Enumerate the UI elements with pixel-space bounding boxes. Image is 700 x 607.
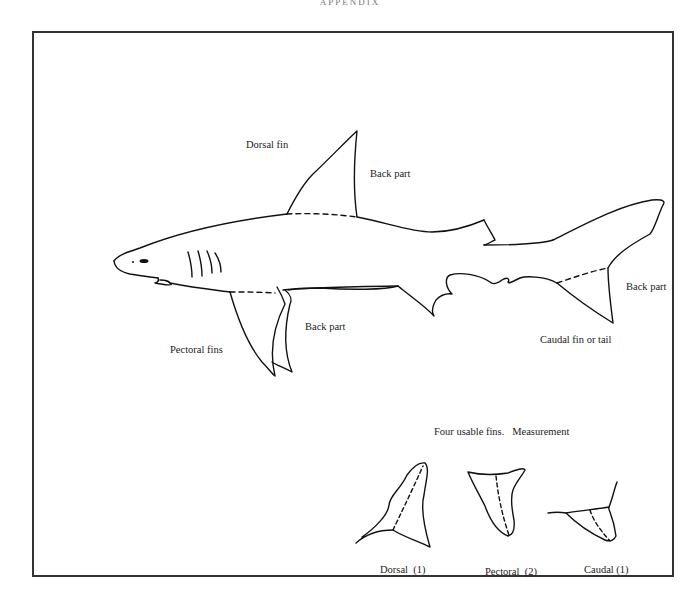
dorsal-fin — [287, 131, 357, 217]
label-dorsal-fin: Dorsal fin — [246, 139, 288, 150]
measure-pectoral — [468, 469, 525, 536]
measure-dorsal — [356, 463, 430, 547]
label-pectoral-back-part: Back part — [305, 321, 346, 332]
measure-caudal — [548, 482, 617, 541]
shark-diagram — [0, 0, 700, 607]
pectoral-fin — [230, 287, 285, 376]
label-pectoral-fins: Pectoral fins — [170, 344, 223, 355]
caption-dorsal: Dorsal (1) — [380, 564, 426, 575]
caption-caudal: Caudal (1) — [584, 564, 629, 575]
eye-icon — [140, 259, 149, 263]
label-dorsal-back-part: Back part — [370, 168, 411, 179]
label-caudal-back-part: Back part — [626, 281, 667, 292]
caption-pectoral: Pectoral (2) — [485, 566, 537, 577]
measurement-heading: Four usable fins. Measurement — [434, 426, 569, 437]
label-caudal-fin: Caudal fin or tail — [540, 334, 611, 345]
